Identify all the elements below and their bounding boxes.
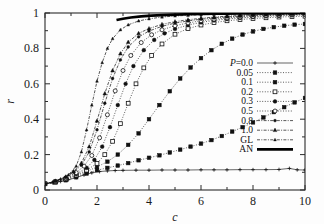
data-marker xyxy=(273,128,277,132)
data-marker xyxy=(273,80,277,84)
data-marker xyxy=(95,162,99,166)
data-marker xyxy=(173,32,177,36)
data-marker xyxy=(147,117,151,121)
legend-label: 0.3 xyxy=(241,96,253,106)
data-marker xyxy=(251,168,255,172)
legend-item-p-0-0[interactable]: P=0.0 xyxy=(229,58,293,68)
data-marker xyxy=(273,90,277,94)
data-marker xyxy=(105,113,109,117)
data-marker xyxy=(273,100,277,104)
data-marker xyxy=(262,116,266,120)
data-marker xyxy=(129,53,133,57)
data-marker xyxy=(238,168,242,172)
data-marker xyxy=(303,168,307,172)
data-marker xyxy=(160,42,164,46)
data-marker xyxy=(241,33,245,37)
data-marker xyxy=(225,168,229,172)
data-marker xyxy=(106,166,110,170)
data-marker xyxy=(137,35,140,38)
data-marker xyxy=(108,125,112,129)
data-marker xyxy=(127,46,130,49)
data-marker xyxy=(212,168,216,172)
data-marker xyxy=(90,153,94,157)
data-marker xyxy=(264,168,268,172)
data-marker xyxy=(189,66,193,70)
data-marker xyxy=(126,161,130,165)
legend-item-gl[interactable]: GL xyxy=(240,135,293,145)
data-marker xyxy=(137,158,141,162)
data-marker xyxy=(59,177,62,180)
y-axis-title: r xyxy=(3,99,17,104)
data-marker xyxy=(93,158,97,162)
data-marker xyxy=(199,142,203,146)
data-marker xyxy=(137,132,141,136)
data-marker xyxy=(75,165,78,168)
plot-frame xyxy=(45,13,305,190)
data-marker xyxy=(116,164,120,168)
data-marker xyxy=(126,143,130,147)
x-tick-label: 4 xyxy=(146,194,152,208)
legend-item-p-0-3[interactable]: 0.3 xyxy=(241,96,293,106)
data-marker xyxy=(189,145,193,149)
data-marker xyxy=(126,101,130,105)
data-marker xyxy=(273,71,277,75)
series-line xyxy=(45,24,305,184)
data-marker xyxy=(103,153,107,157)
y-tick-label: 0.4 xyxy=(24,112,39,126)
x-tick-label: 8 xyxy=(250,194,256,208)
data-marker xyxy=(119,122,123,126)
data-marker xyxy=(168,151,172,155)
data-marker xyxy=(186,168,190,172)
data-marker xyxy=(142,48,146,52)
legend-label: 0.05 xyxy=(236,68,253,78)
legend-label: P=0.0 xyxy=(229,58,253,68)
data-marker xyxy=(210,48,214,52)
legend-item-p-0-8[interactable]: 0.8 xyxy=(241,116,293,126)
legend-item-p-0-05[interactable]: 0.05 xyxy=(236,68,293,78)
data-marker xyxy=(293,101,297,105)
data-marker xyxy=(142,66,146,70)
data-marker xyxy=(98,136,102,140)
data-marker xyxy=(158,103,162,107)
y-tick-label: 1 xyxy=(33,6,39,20)
legend-item-an[interactable]: AN xyxy=(239,144,293,154)
legend-label-rest: =0.0 xyxy=(236,58,253,68)
data-marker xyxy=(293,23,297,27)
x-tick-label: 10 xyxy=(299,194,311,208)
legend-label: AN xyxy=(239,144,253,154)
data-marker xyxy=(160,168,164,172)
data-marker xyxy=(124,82,128,86)
data-marker xyxy=(113,89,117,93)
data-marker xyxy=(178,77,182,81)
legend-item-p-0-2[interactable]: 0.2 xyxy=(241,87,293,97)
y-tick-label: 0.6 xyxy=(24,77,39,91)
legend-item-p-0-1[interactable]: 0.1 xyxy=(241,77,293,87)
data-marker xyxy=(303,22,307,26)
data-marker xyxy=(139,41,143,45)
data-marker xyxy=(303,96,307,100)
y-tick-label: 0.8 xyxy=(24,41,39,55)
data-marker xyxy=(220,42,224,46)
data-marker xyxy=(103,91,107,95)
data-marker xyxy=(272,25,276,29)
data-marker xyxy=(100,145,104,149)
data-marker xyxy=(137,31,141,35)
data-marker xyxy=(288,167,292,171)
data-marker xyxy=(150,33,154,37)
data-marker xyxy=(295,168,299,172)
x-axis-title: c xyxy=(172,210,178,224)
legend-label: 0.1 xyxy=(241,77,253,87)
data-marker xyxy=(273,61,277,65)
chart-plot: 024681000.20.40.60.81crP=0.00.050.10.20.… xyxy=(0,0,324,224)
series-p-0-1 xyxy=(43,22,307,185)
data-marker xyxy=(178,148,182,152)
data-marker xyxy=(121,169,125,173)
figure-container: 024681000.20.40.60.81crP=0.00.050.10.20.… xyxy=(0,0,324,224)
data-marker xyxy=(103,102,106,105)
series-p-0-0 xyxy=(43,167,307,186)
x-tick-label: 2 xyxy=(94,194,100,208)
legend-item-p-1-0[interactable]: 1.0 xyxy=(241,125,293,135)
data-marker xyxy=(85,128,88,131)
data-marker xyxy=(199,56,203,60)
data-marker xyxy=(121,69,125,73)
